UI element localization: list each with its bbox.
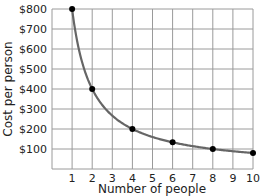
cost-per-person-chart: $100$200$300$400$500$600$700$800 1234567… xyxy=(0,0,264,196)
x-tick-label: 10 xyxy=(246,172,260,185)
y-tick-label: $700 xyxy=(19,23,47,36)
data-point xyxy=(250,150,256,156)
y-tick-label: $300 xyxy=(19,103,47,116)
grid xyxy=(52,9,253,169)
x-tick-label: 8 xyxy=(209,172,216,185)
y-axis-label: Cost per person xyxy=(1,41,15,136)
data-point xyxy=(129,126,135,132)
data-point xyxy=(170,139,176,145)
x-tick-label: 2 xyxy=(89,172,96,185)
y-tick-label: $100 xyxy=(19,143,47,156)
data-point xyxy=(210,146,216,152)
y-tick-label: $600 xyxy=(19,43,47,56)
data-point xyxy=(69,6,75,12)
cost-curve xyxy=(72,9,253,153)
y-tick-label: $400 xyxy=(19,83,47,96)
y-tick-label: $200 xyxy=(19,123,47,136)
y-axis-ticks: $100$200$300$400$500$600$700$800 xyxy=(19,3,47,156)
y-tick-label: $800 xyxy=(19,3,47,16)
x-axis-label: Number of people xyxy=(98,182,206,196)
x-tick-label: 9 xyxy=(229,172,236,185)
x-tick-label: 1 xyxy=(69,172,76,185)
data-point xyxy=(89,86,95,92)
y-tick-label: $500 xyxy=(19,63,47,76)
